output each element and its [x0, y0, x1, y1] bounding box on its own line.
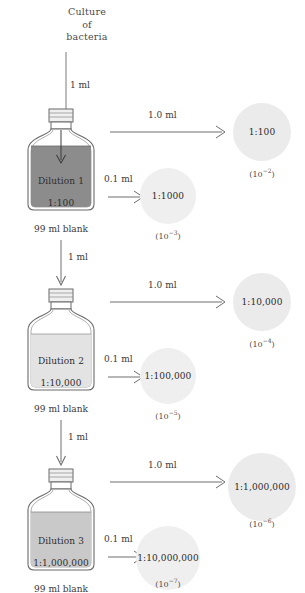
plate-dilution-3-minor-exponent: (10−7)	[138, 580, 198, 589]
bottle-2-blank-label: 99 ml blank	[18, 404, 104, 414]
bottle-2-name: Dilution 2	[18, 356, 104, 366]
exp-sup-3-major: −6	[263, 517, 272, 524]
exp-sup-2-major: −4	[263, 337, 272, 344]
transfer-arrow-2-to-3	[53, 420, 73, 470]
plate-dilution-3-major: 1:1,000,000	[228, 453, 296, 521]
plate-dilution-3-major-exponent: (10−6)	[233, 520, 291, 529]
exp-open-3-major: (10	[249, 520, 262, 529]
plate-dilution-2-minor: 1:100,000	[140, 348, 196, 404]
exp-close-1-major: )	[272, 170, 275, 179]
plate-dilution-2-minor-label: 1:100,000	[145, 371, 192, 381]
bottle-dilution-2	[18, 288, 104, 392]
culture-feed-volume: 1 ml	[70, 80, 90, 90]
title-line-2: of	[42, 19, 132, 32]
transfer-arrow-1-to-2	[53, 240, 73, 290]
exp-close-3-major: )	[272, 520, 275, 529]
stage-2-major-arrow	[110, 295, 232, 309]
stage-3-minor-volume: 0.1 ml	[104, 534, 133, 544]
exp-open-1-major: (10	[249, 170, 262, 179]
exp-close-3-minor: )	[178, 580, 181, 589]
bottle-dilution-1	[18, 108, 104, 212]
stage-2-minor-volume: 0.1 ml	[104, 354, 133, 364]
bottle-2-ratio: 1:10,000	[18, 378, 104, 388]
plate-dilution-3-major-label: 1:1,000,000	[234, 482, 290, 492]
stage-3-major-arrow	[110, 475, 232, 489]
plate-dilution-1-major-exponent: (10−2)	[233, 170, 291, 179]
exp-sup-1-major: −2	[263, 167, 272, 174]
exp-sup-1-minor: −3	[169, 229, 178, 236]
exp-close-1-minor: )	[178, 232, 181, 241]
transfer-1-to-2-volume: 1 ml	[68, 252, 88, 262]
transfer-2-to-3-volume: 1 ml	[68, 432, 88, 442]
plate-dilution-1-minor: 1:1000	[140, 168, 196, 224]
exp-open-3-minor: (10	[155, 580, 168, 589]
exp-open-1-minor: (10	[155, 232, 168, 241]
stage-2-major-volume: 1.0 ml	[148, 280, 177, 290]
bottle-1-ratio: 1:100	[18, 198, 104, 208]
stage-1-minor-volume: 0.1 ml	[104, 174, 133, 184]
plate-dilution-1-major-label: 1:100	[249, 127, 275, 137]
diagram-title: Culture of bacteria	[42, 6, 132, 44]
stage-1-major-volume: 1.0 ml	[148, 110, 177, 120]
stage-1-major-arrow	[110, 125, 232, 139]
plate-dilution-2-major-label: 1:10,000	[241, 297, 282, 307]
stage-3-major-volume: 1.0 ml	[148, 460, 177, 470]
plate-dilution-2-major-exponent: (10−4)	[233, 340, 291, 349]
title-line-1: Culture	[42, 6, 132, 19]
plate-dilution-2-major: 1:10,000	[233, 273, 291, 331]
title-line-3: bacteria	[42, 31, 132, 44]
bottle-dilution-3	[18, 468, 104, 572]
exp-close-2-major: )	[272, 340, 275, 349]
bottle-1-name: Dilution 1	[18, 176, 104, 186]
exp-open-2-minor: (10	[155, 412, 168, 421]
plate-dilution-1-minor-exponent: (10−3)	[140, 232, 196, 241]
exp-close-2-minor: )	[178, 412, 181, 421]
bottle-3-blank-label: 99 ml blank	[18, 584, 104, 593]
exp-open-2-major: (10	[249, 340, 262, 349]
bottle-3-name: Dilution 3	[18, 536, 104, 546]
plate-dilution-1-major: 1:100	[233, 103, 291, 161]
bottle-3-ratio: 1:1,000,000	[14, 558, 108, 568]
plate-dilution-3-minor-label: 1:10,000,000	[137, 553, 199, 563]
exp-sup-3-minor: −7	[169, 577, 178, 584]
bottle-1-blank-label: 99 ml blank	[18, 224, 104, 234]
serial-dilution-diagram: Culture of bacteria 1 ml	[0, 0, 305, 593]
exp-sup-2-minor: −5	[169, 409, 178, 416]
plate-dilution-2-minor-exponent: (10−5)	[140, 412, 196, 421]
plate-dilution-1-minor-label: 1:1000	[152, 191, 184, 201]
